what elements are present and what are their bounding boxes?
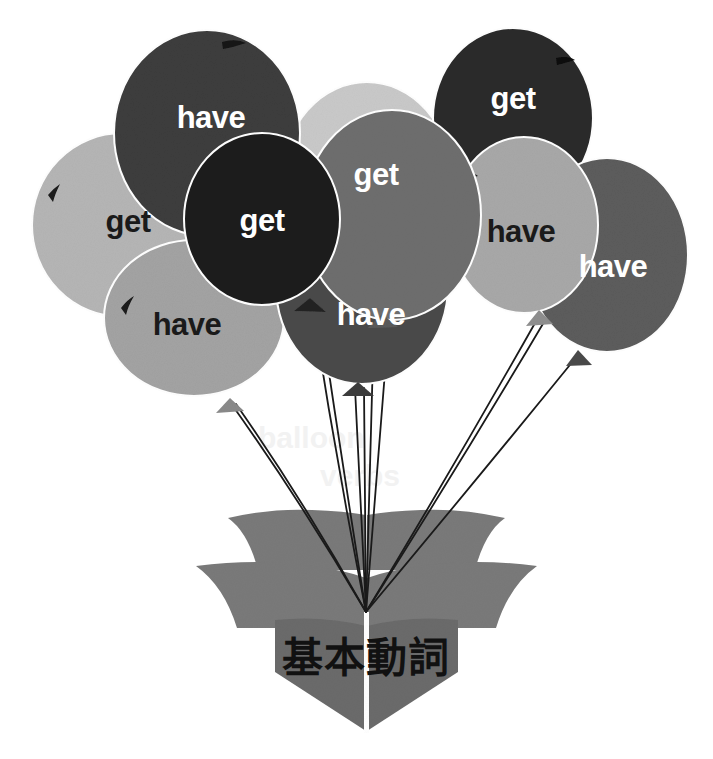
balloon-label-have-lowerleft: have bbox=[153, 307, 222, 342]
balloon-label-have-center: have bbox=[337, 297, 406, 332]
ghost-text-0: balloon bbox=[258, 421, 365, 454]
balloon-label-get-topright: get bbox=[491, 81, 536, 116]
balloon-label-have-topleft: have bbox=[177, 100, 246, 135]
balloons-scene: balloon verbs 基本動詞 bbox=[0, 0, 713, 759]
balloon-label-get-dark: get bbox=[240, 203, 285, 238]
balloon-label-have-right: have bbox=[487, 214, 556, 249]
balloon-label-have-farright: have bbox=[579, 249, 648, 284]
book-title: 基本動詞 bbox=[282, 634, 450, 682]
illustration-canvas: balloon verbs 基本動詞 bbox=[0, 0, 713, 759]
balloon-label-get-left: get bbox=[106, 204, 151, 239]
balloon-label-get-center: get bbox=[354, 157, 399, 192]
